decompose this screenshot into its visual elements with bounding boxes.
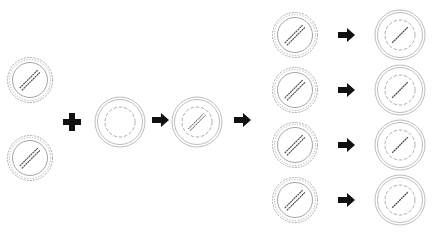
arrow-icon-3 <box>338 28 355 42</box>
arrow-icon-5 <box>338 138 355 152</box>
source-gear-cell-1 <box>8 58 53 103</box>
output-dish-2 <box>375 65 425 115</box>
diagram-canvas <box>0 0 432 234</box>
arrow-icon-2 <box>234 113 251 127</box>
output-gear-cell-2 <box>273 68 318 113</box>
loaded-dish <box>172 97 222 147</box>
source-gear-cell-2 <box>8 136 53 181</box>
output-dish-4 <box>375 175 425 225</box>
output-gear-cell-4 <box>273 178 318 223</box>
output-gear-cell-1 <box>273 13 318 58</box>
empty-dish <box>95 97 145 147</box>
arrow-icon-6 <box>338 193 355 207</box>
arrow-icon-4 <box>338 83 355 97</box>
plus-icon <box>63 113 81 131</box>
output-gear-cell-3 <box>273 123 318 168</box>
arrow-icon-1 <box>152 113 169 127</box>
output-dish-1 <box>375 10 425 60</box>
output-dish-3 <box>375 120 425 170</box>
